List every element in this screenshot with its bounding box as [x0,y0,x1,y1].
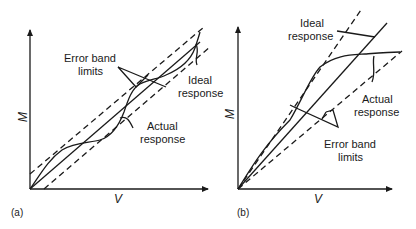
error-band-label-a-2: limits [78,65,104,77]
ideal-response-pointer-a [196,44,197,65]
error-band-label-a-1: Error band [64,52,116,64]
error-band-upper-a [30,27,204,174]
y-axis-label-b: M [223,109,237,119]
panel-b: Ideal response Actual response Error ban… [223,10,402,218]
panel-caption-b: (b) [237,207,249,218]
ideal-response-label-a-1: Ideal [188,74,212,86]
ideal-response-line-a [30,42,200,189]
y-axis-label-a: M [16,112,30,122]
actual-response-label-a-2: response [140,133,185,145]
actual-response-label-b-1: Actual [362,93,393,105]
panel-a: Error band limits Ideal response Actual … [11,27,223,218]
actual-response-label-b-2: response [354,106,399,118]
actual-response-label-a-1: Actual [147,120,178,132]
diagram-canvas: Error band limits Ideal response Actual … [0,0,416,229]
panel-caption-a: (a) [11,207,23,218]
ideal-response-label-a-2: response [178,87,223,99]
error-band-lower-b [238,51,402,189]
error-band-label-b-1: Error band [324,138,376,150]
ideal-response-label-b-2: response [288,30,333,42]
x-axis-label-b: V [314,192,323,206]
ideal-response-label-b-1: Ideal [300,17,324,29]
actual-response-pointer-b [372,56,374,82]
x-axis-label-a: V [114,192,123,206]
error-band-label-b-2: limits [338,151,364,163]
